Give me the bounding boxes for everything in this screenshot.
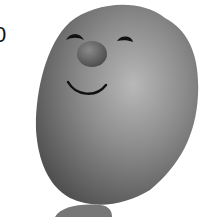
lower-object-edge (55, 205, 112, 218)
clay-body (36, 5, 198, 205)
nose (77, 41, 107, 67)
clay-face-photo (0, 0, 203, 217)
